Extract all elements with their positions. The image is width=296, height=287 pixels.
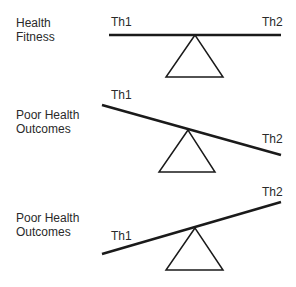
fulcrum-triangle-1 [166, 35, 223, 77]
th2-label-1: Th2 [262, 15, 283, 29]
th1-label-1: Th1 [111, 15, 132, 29]
state-label-3-line1: Poor Health [16, 211, 79, 225]
state-label-1: Health Fitness [16, 16, 55, 44]
fulcrum-triangle-2 [159, 130, 215, 172]
th1-label-2: Th1 [111, 88, 132, 102]
state-label-2-line1: Poor Health [16, 108, 79, 122]
beam-tilted-right [102, 105, 281, 155]
state-label-3: Poor Health Outcomes [16, 211, 79, 239]
state-label-1-line2: Fitness [16, 30, 55, 44]
th1-label-3: Th1 [111, 229, 132, 243]
state-label-2-line2: Outcomes [16, 122, 79, 136]
state-label-1-line1: Health [16, 16, 55, 30]
seesaw-balanced [109, 35, 281, 77]
beam-tilted-left [102, 202, 281, 254]
fulcrum-triangle-3 [166, 228, 223, 270]
th2-label-3: Th2 [262, 185, 283, 199]
state-label-2: Poor Health Outcomes [16, 108, 79, 136]
state-label-3-line2: Outcomes [16, 225, 79, 239]
seesaw-th2-heavy [102, 105, 281, 172]
th2-label-2: Th2 [262, 132, 283, 146]
